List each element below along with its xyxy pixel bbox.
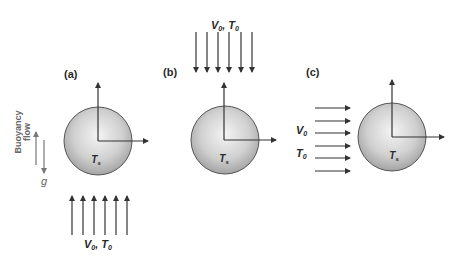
panel-c-velocity-label: V0 <box>296 124 307 137</box>
panel-a-label: (a) <box>64 68 78 80</box>
upward-flow-arrows <box>72 196 127 235</box>
horizontal-flow-arrows <box>315 108 350 171</box>
downward-flow-arrows <box>196 32 252 72</box>
panel-b: (b) V0, T0 Ts <box>163 19 276 174</box>
gravity-label: g <box>41 175 48 187</box>
panel-c-label: (c) <box>306 66 320 78</box>
panel-a-flow-label: V0, T0 <box>84 238 112 251</box>
buoyancy-indicator: Buoyancy flow g <box>13 110 48 187</box>
flow-label: flow <box>22 122 32 141</box>
panel-c-temperature-label: T0 <box>296 147 307 160</box>
panel-c: (c) V0 T0 Ts <box>296 66 444 171</box>
panel-a: (a) Ts V0, T0 <box>64 68 148 251</box>
panel-b-flow-label: V0, T0 <box>211 19 239 32</box>
convection-diagram: Buoyancy flow g (a) Ts V0, T0 (b) V0, T0 <box>0 0 455 263</box>
panel-b-label: (b) <box>163 66 177 78</box>
